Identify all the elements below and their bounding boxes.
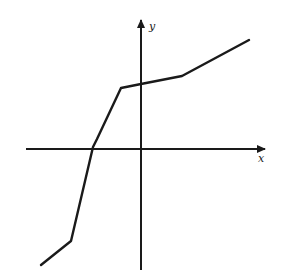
piecewise-linear-graph: y x: [0, 0, 284, 277]
function-curve: [41, 40, 249, 265]
x-axis-label: x: [258, 152, 265, 165]
y-axis-label: y: [148, 20, 156, 33]
